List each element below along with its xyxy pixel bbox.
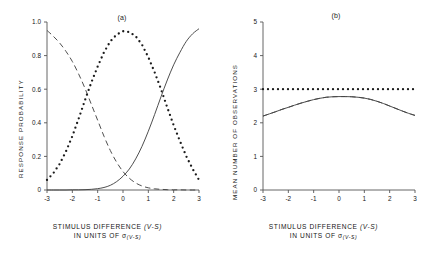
panel-b-plot: 012345-3-2-10123 — [216, 0, 431, 259]
panel-b-caption: STIMULUS DIFFERENCE (V-S) IN UNITS OF σ(… — [216, 222, 431, 242]
svg-text:-2: -2 — [69, 195, 75, 202]
panel-a-plot: 00.20.40.60.81.0-3-2-10123 — [0, 0, 215, 259]
panel-a-sigma-sub: (V-S) — [127, 234, 141, 240]
svg-text:-2: -2 — [285, 195, 291, 202]
svg-text:1: 1 — [253, 153, 257, 160]
svg-text:0: 0 — [37, 186, 41, 193]
figure-container: (a) RESPONSE PROBABILITY 00.20.40.60.81.… — [0, 0, 431, 259]
svg-text:3: 3 — [197, 195, 201, 202]
panel-b-caption-var: (V-S) — [360, 223, 378, 230]
svg-text:2: 2 — [388, 195, 392, 202]
svg-text:-3: -3 — [44, 195, 50, 202]
svg-text:3: 3 — [253, 86, 257, 93]
svg-text:0.8: 0.8 — [32, 52, 41, 59]
svg-text:5: 5 — [253, 18, 257, 25]
svg-text:0: 0 — [121, 195, 125, 202]
svg-text:4: 4 — [253, 52, 257, 59]
svg-text:-3: -3 — [260, 195, 266, 202]
panel-b: (b) MEAN NUMBER OF OBSERVATIONS 012345-3… — [216, 0, 431, 259]
panel-b-sigma-sub: (V-S) — [343, 234, 357, 240]
panel-a-caption-var: (V-S) — [144, 223, 162, 230]
svg-text:0: 0 — [253, 186, 257, 193]
panel-b-caption-line2: IN UNITS OF — [290, 232, 336, 239]
svg-text:1: 1 — [147, 195, 151, 202]
svg-text:0.6: 0.6 — [32, 86, 41, 93]
svg-text:3: 3 — [413, 195, 417, 202]
svg-text:1.0: 1.0 — [32, 18, 41, 25]
svg-text:0.2: 0.2 — [32, 153, 41, 160]
svg-text:0.4: 0.4 — [32, 119, 41, 126]
panel-a-caption-line2: IN UNITS OF — [74, 232, 120, 239]
panel-a: (a) RESPONSE PROBABILITY 00.20.40.60.81.… — [0, 0, 215, 259]
svg-text:-1: -1 — [95, 195, 101, 202]
svg-text:-1: -1 — [311, 195, 317, 202]
panel-b-caption-line1: STIMULUS DIFFERENCE — [269, 223, 358, 230]
svg-text:0: 0 — [337, 195, 341, 202]
svg-text:2: 2 — [253, 119, 257, 126]
svg-text:1: 1 — [363, 195, 367, 202]
panel-a-caption-line1: STIMULUS DIFFERENCE — [53, 223, 142, 230]
svg-text:2: 2 — [172, 195, 176, 202]
panel-a-caption: STIMULUS DIFFERENCE (V-S) IN UNITS OF σ(… — [0, 222, 215, 242]
